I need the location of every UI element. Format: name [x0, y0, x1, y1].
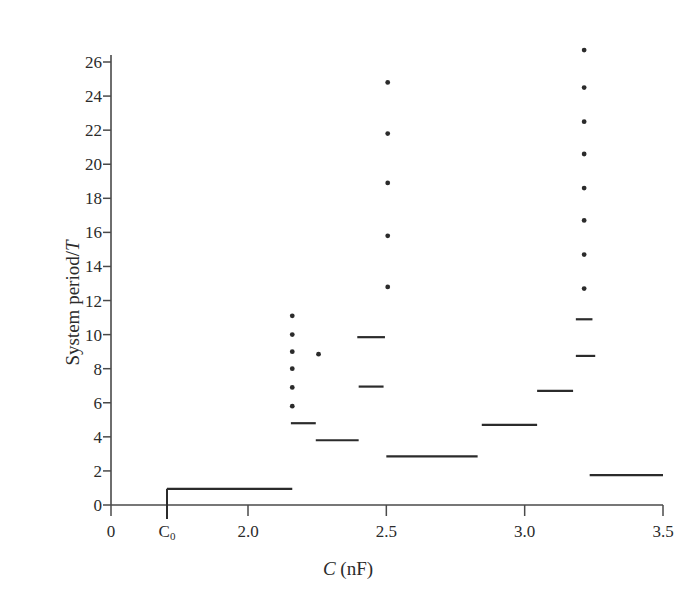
data-point — [290, 349, 295, 354]
x-tick-label: 2.5 — [376, 523, 397, 540]
y-tick-label: 8 — [40, 360, 102, 377]
data-point — [582, 186, 587, 191]
x-axis-title-units: (nF) — [336, 558, 373, 579]
y-tick-label: 4 — [40, 428, 102, 445]
y-tick-label: 6 — [40, 394, 102, 411]
y-tick-label: 14 — [40, 258, 102, 275]
x-axis-title-symbol: C — [323, 558, 336, 579]
y-tick-label: 12 — [40, 292, 102, 309]
data-point — [385, 285, 390, 290]
data-point — [290, 366, 295, 371]
y-tick-label: 0 — [40, 497, 102, 514]
y-tick-label: 22 — [40, 122, 102, 139]
y-axis-title-symbol: T — [62, 240, 83, 251]
y-tick-label: 26 — [40, 54, 102, 71]
plot-area — [0, 0, 696, 605]
data-point — [290, 332, 295, 337]
data-point — [582, 152, 587, 157]
data-point — [385, 181, 390, 186]
x-tick-label: 2.0 — [237, 523, 258, 540]
chart-canvas — [0, 0, 696, 605]
figure-container: System period/T C (nF) 02468101214161820… — [0, 0, 696, 605]
data-point — [582, 48, 587, 53]
data-point — [582, 85, 587, 90]
y-tick-label: 24 — [40, 88, 102, 105]
data-point — [290, 385, 295, 390]
data-point — [316, 352, 321, 357]
x-tick-label: 0 — [107, 523, 116, 540]
data-point — [290, 404, 295, 409]
data-point — [582, 218, 587, 223]
x-tick-label: 3.5 — [652, 523, 673, 540]
y-tick-label: 16 — [40, 224, 102, 241]
data-point — [582, 119, 587, 124]
data-point — [582, 286, 587, 291]
data-point — [582, 252, 587, 257]
data-point — [290, 313, 295, 318]
y-tick-label: 2 — [40, 462, 102, 479]
y-tick-label: 18 — [40, 190, 102, 207]
x-tick-label: C0 — [159, 523, 176, 540]
y-tick-label: 20 — [40, 156, 102, 173]
data-point — [385, 131, 390, 136]
data-point — [385, 233, 390, 238]
data-point — [385, 80, 390, 85]
x-axis-title: C (nF) — [0, 558, 696, 580]
y-tick-label: 10 — [40, 326, 102, 343]
x-tick-label: 3.0 — [514, 523, 535, 540]
